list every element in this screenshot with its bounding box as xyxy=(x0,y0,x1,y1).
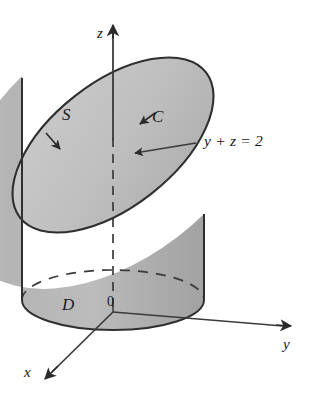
origin-label: 0 xyxy=(107,295,114,309)
surface-label-s: S xyxy=(62,106,71,123)
curve-label-c: C xyxy=(152,108,163,125)
axis-label-z: z xyxy=(97,26,103,41)
axis-label-y: y xyxy=(283,337,290,352)
region-label-d: D xyxy=(62,296,74,313)
cylinder-diagram xyxy=(0,0,314,409)
plane-equation-label: y + z = 2 xyxy=(204,133,263,149)
axis-label-x: x xyxy=(24,365,31,380)
arrow-right-icon xyxy=(276,325,291,326)
arrow-down-left-icon xyxy=(45,366,58,379)
